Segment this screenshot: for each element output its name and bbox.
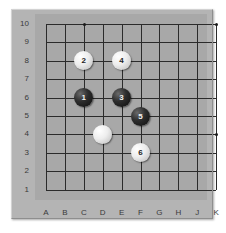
row-label-4: 4 bbox=[15, 129, 29, 138]
stone-label: 3 bbox=[119, 93, 123, 102]
row-label-9: 9 bbox=[15, 37, 29, 46]
column-label-k: K bbox=[210, 208, 222, 217]
grid-line-horizontal bbox=[46, 98, 216, 99]
grid-line-horizontal bbox=[46, 24, 216, 25]
row-label-1: 1 bbox=[15, 185, 29, 194]
grid-line-vertical bbox=[197, 24, 198, 190]
column-label-h: H bbox=[172, 208, 184, 217]
grid-line-vertical bbox=[65, 24, 66, 190]
board-frame: ABCDEFGHJK10987654321 241356 bbox=[11, 9, 213, 219]
column-label-a: A bbox=[40, 208, 52, 217]
stone-black-5[interactable]: 5 bbox=[131, 107, 150, 126]
grid-line-vertical bbox=[103, 24, 104, 190]
star-point bbox=[215, 133, 218, 136]
column-label-f: F bbox=[135, 208, 147, 217]
grid-line-horizontal bbox=[46, 134, 216, 135]
grid-line-vertical bbox=[216, 24, 217, 190]
row-label-8: 8 bbox=[15, 56, 29, 65]
board-surface: ABCDEFGHJK10987654321 241356 bbox=[35, 14, 207, 200]
grid-line-vertical bbox=[178, 24, 179, 190]
stone-label: 5 bbox=[138, 112, 142, 121]
column-label-c: C bbox=[78, 208, 90, 217]
grid-line-horizontal bbox=[46, 190, 216, 191]
row-label-2: 2 bbox=[15, 166, 29, 175]
grid-line-horizontal bbox=[46, 61, 216, 62]
stone-label: 4 bbox=[119, 56, 123, 65]
stone-label: 2 bbox=[82, 56, 86, 65]
grid-line-horizontal bbox=[46, 171, 216, 172]
row-label-3: 3 bbox=[15, 148, 29, 157]
row-label-7: 7 bbox=[15, 74, 29, 83]
stone-label: 1 bbox=[82, 93, 86, 102]
stone-white-unnumbered[interactable] bbox=[93, 125, 112, 144]
column-label-d: D bbox=[97, 208, 109, 217]
row-label-10: 10 bbox=[15, 19, 29, 28]
go-diagram-root: ABCDEFGHJK10987654321 241356 bbox=[0, 0, 226, 233]
row-label-5: 5 bbox=[15, 111, 29, 120]
column-label-e: E bbox=[116, 208, 128, 217]
grid-line-horizontal bbox=[46, 42, 216, 43]
grid-line-horizontal bbox=[46, 79, 216, 80]
grid-line-vertical bbox=[159, 24, 160, 190]
column-label-g: G bbox=[153, 208, 165, 217]
column-label-b: B bbox=[59, 208, 71, 217]
star-point bbox=[215, 23, 218, 26]
stone-label: 6 bbox=[138, 148, 142, 157]
star-point bbox=[83, 23, 86, 26]
grid-line-vertical bbox=[46, 24, 47, 190]
row-label-6: 6 bbox=[15, 93, 29, 102]
column-label-j: J bbox=[191, 208, 203, 217]
